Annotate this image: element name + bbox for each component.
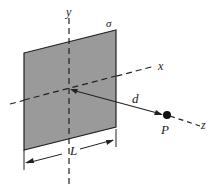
z-axis-label: z bbox=[200, 118, 206, 132]
distance-label: d bbox=[132, 91, 139, 106]
l-arrowhead-right bbox=[106, 140, 114, 145]
arrowhead-p bbox=[154, 110, 163, 115]
point-p-dot bbox=[163, 111, 171, 119]
charged-sheet-diagram: y σ x d P z L bbox=[0, 0, 217, 190]
side-length-label: L bbox=[69, 143, 77, 158]
z-axis-line bbox=[170, 116, 200, 126]
l-arrowhead-left bbox=[25, 158, 34, 163]
sigma-label: σ bbox=[106, 17, 112, 29]
point-label: P bbox=[160, 122, 169, 137]
charged-plate bbox=[24, 30, 116, 150]
y-axis-label: y bbox=[65, 5, 72, 19]
x-axis-label: x bbox=[157, 59, 164, 73]
